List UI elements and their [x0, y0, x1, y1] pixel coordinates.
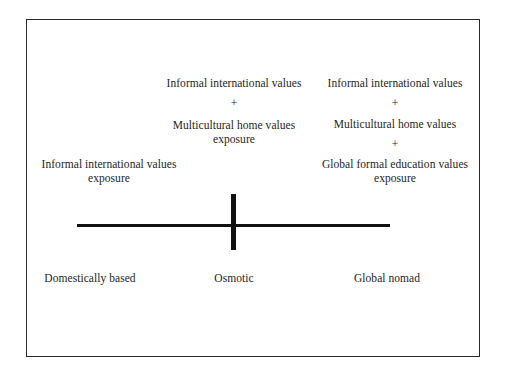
domestic-description-line-2: exposure — [88, 171, 130, 185]
nomad-description-line-1: Informal international values — [328, 76, 463, 90]
nomad-plus-sign-1: + — [392, 96, 399, 110]
osmotic-description-line-3: exposure — [213, 132, 255, 146]
domestic-description-line-1: Informal international values — [42, 157, 177, 171]
label-global-nomad: Global nomad — [354, 271, 420, 285]
nomad-description-line-3: Global formal education values — [322, 157, 468, 171]
osmotic-plus-sign: + — [231, 96, 238, 110]
diagram-frame — [26, 19, 480, 357]
nomad-plus-sign-2: + — [392, 137, 399, 151]
nomad-description-line-4: exposure — [374, 171, 416, 185]
label-osmotic: Osmotic — [214, 271, 253, 285]
center-tick-mark — [231, 194, 236, 250]
osmotic-description-line-1: Informal international values — [167, 76, 302, 90]
osmotic-description-line-2: Multicultural home values — [173, 118, 296, 132]
nomad-description-line-2: Multicultural home values — [334, 117, 457, 131]
label-domestically-based: Domestically based — [44, 271, 135, 285]
